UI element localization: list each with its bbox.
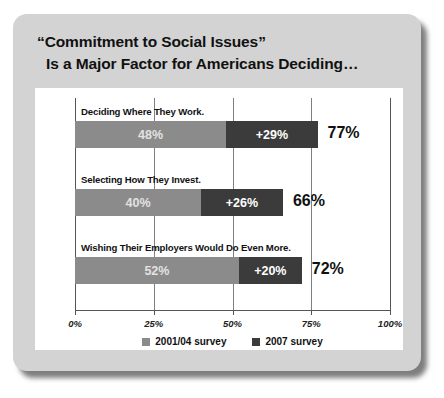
x-axis-tick-label: 50%: [223, 318, 242, 329]
chart-title-line-2: Is a Major Factor for Americans Deciding…: [37, 53, 407, 75]
legend-item-2001-04: 2001/04 survey: [142, 336, 226, 347]
legend-swatch-icon: [142, 338, 150, 346]
bar-segment-value: +29%: [256, 128, 288, 142]
legend-swatch-icon: [252, 338, 260, 346]
bar-total-label: 66%: [293, 192, 325, 210]
bar-segment-value: 52%: [144, 264, 169, 278]
category-label: Deciding Where They Work.: [81, 106, 204, 117]
bar-segment-2007: +29%: [226, 121, 317, 148]
x-axis-tick-label: 75%: [302, 318, 321, 329]
x-axis-tick-label: 25%: [144, 318, 163, 329]
tick-mark: [75, 310, 76, 315]
gridline: [390, 98, 391, 310]
bar-segment-value: +26%: [226, 196, 258, 210]
category-label: Selecting How They Invest.: [81, 174, 201, 185]
chart-card: “Commitment to Social Issues” Is a Major…: [13, 14, 421, 371]
bar-segment-value: 48%: [138, 128, 163, 142]
plot-area: 0%25%50%75%100% Deciding Where They Work…: [75, 98, 390, 310]
tick-mark: [311, 310, 312, 315]
bar-segment-value: 40%: [125, 196, 150, 210]
tick-mark: [233, 310, 234, 315]
bar-segment-2007: +20%: [239, 257, 302, 284]
chart-legend: 2001/04 survey 2007 survey: [75, 336, 390, 347]
bar-total-label: 72%: [312, 260, 344, 278]
legend-label: 2001/04 survey: [155, 336, 226, 347]
legend-item-2007: 2007 survey: [252, 336, 322, 347]
bar-segment-2007: +26%: [201, 189, 283, 216]
bar-segment-2001-04: 52%: [75, 257, 239, 284]
legend-label: 2007 survey: [265, 336, 322, 347]
chart-panel: 0%25%50%75%100% Deciding Where They Work…: [35, 88, 403, 350]
chart-title-line-1: “Commitment to Social Issues”: [37, 31, 407, 53]
bar-segment-2001-04: 40%: [75, 189, 201, 216]
tick-mark: [390, 310, 391, 315]
x-axis-tick-label: 0%: [68, 318, 82, 329]
chart-title: “Commitment to Social Issues” Is a Major…: [37, 31, 407, 75]
tick-mark: [154, 310, 155, 315]
chart-page: “Commitment to Social Issues” Is a Major…: [0, 0, 444, 398]
bar-segment-value: +20%: [254, 264, 286, 278]
category-label: Wishing Their Employers Would Do Even Mo…: [81, 242, 291, 253]
x-axis-tick-label: 100%: [378, 318, 402, 329]
bar-segment-2001-04: 48%: [75, 121, 226, 148]
bar-total-label: 77%: [328, 124, 360, 142]
